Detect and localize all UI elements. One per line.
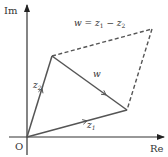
vector-z2-label: z2 — [32, 80, 42, 91]
dashed-edge-corner-z1 — [127, 29, 152, 110]
formula-label: w = z1 − z2 — [74, 18, 126, 29]
complex-plane-diagram: Im Re O w = z1 − z2 z2 w z1 — [0, 0, 168, 157]
vector-z1 — [27, 110, 127, 137]
imaginary-axis-label: Im — [4, 5, 18, 16]
dashed-edge-z2-corner — [52, 29, 152, 56]
vector-z1-label: z1 — [86, 120, 96, 131]
real-axis-label: Re — [150, 143, 164, 154]
vector-w-label: w — [93, 69, 101, 79]
vector-z2 — [27, 56, 52, 137]
vector-w — [52, 56, 127, 110]
origin-label: O — [15, 141, 23, 152]
